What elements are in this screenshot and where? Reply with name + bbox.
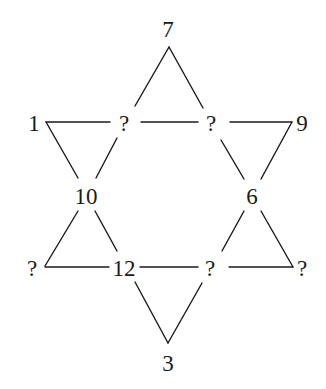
edge-top-to-upper-right-inner (169, 47, 203, 108)
node-upper-left-outer: 1 (28, 112, 40, 135)
node-upper-right-outer: 9 (296, 112, 308, 135)
star-puzzle-diagram: 7 1 ? ? 9 10 6 ? 12 ? ? 3 (0, 0, 326, 389)
edge-1-to-10 (46, 122, 78, 178)
edge-6-to-lower-right-inner (222, 211, 244, 251)
edge-upper-left-inner-to-10 (96, 138, 117, 178)
edge-10-to-12 (95, 211, 117, 251)
node-bottom: 3 (162, 352, 174, 375)
edge-9-to-6 (261, 122, 292, 179)
edge-6-to-lower-right-outer (261, 211, 293, 267)
node-upper-left-inner: ? (119, 112, 129, 135)
edge-12-to-3 (135, 282, 168, 343)
node-lower-left-inner: 12 (113, 257, 136, 280)
node-lower-left-outer: ? (27, 257, 37, 280)
node-mid-left: 10 (75, 185, 98, 208)
node-lower-right-outer: ? (297, 257, 307, 280)
node-top: 7 (162, 18, 174, 41)
edge-lower-right-inner-to-3 (168, 283, 202, 343)
edge-top-to-upper-left-inner (135, 47, 169, 106)
edge-upper-right-inner-to-6 (221, 140, 244, 179)
node-upper-right-inner: ? (206, 112, 216, 135)
node-mid-right: 6 (246, 185, 258, 208)
edge-10-to-lower-left-outer (45, 211, 78, 266)
node-lower-right-inner: ? (205, 257, 215, 280)
star-lines (0, 0, 326, 389)
